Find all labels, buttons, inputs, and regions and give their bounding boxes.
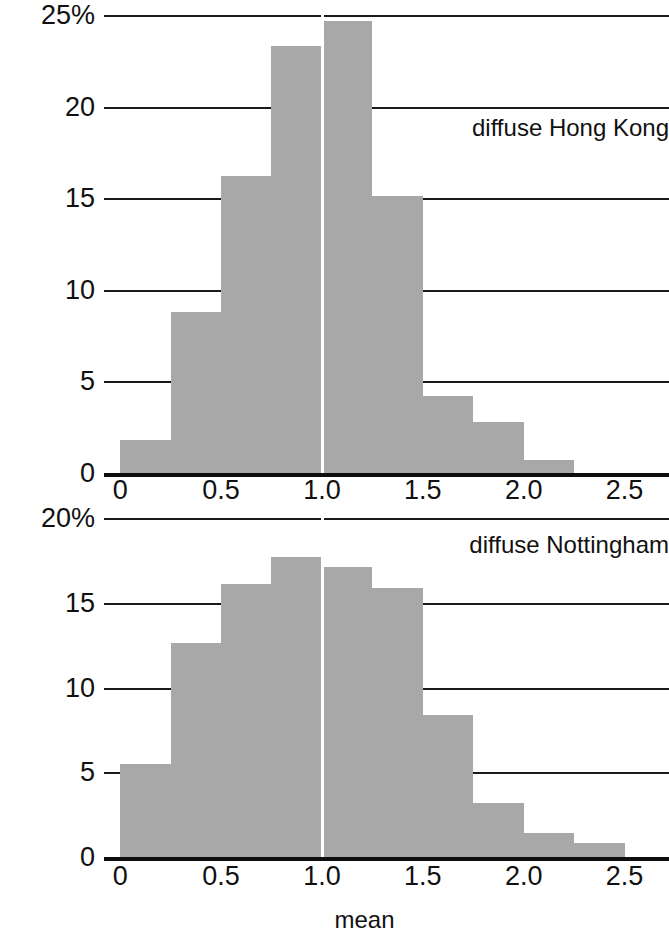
histogram-bar [372, 196, 422, 473]
reference-line-mean-1 [321, 518, 324, 857]
series-label-nottingham: diffuse Nottingham [469, 533, 669, 557]
plot-area-hong-kong: 0510152025% [104, 15, 669, 473]
histogram-figure: 0510152025% 00.51.01.52.02.5 diffuse Hon… [0, 0, 669, 939]
plot-area-nottingham: 05101520% [104, 518, 669, 857]
x-axis-nottingham: 00.51.01.52.02.5 [104, 863, 669, 903]
x-axis-tick-label: 1.0 [303, 863, 341, 890]
y-axis-tick-label: 15 [65, 589, 95, 616]
histogram-bar [423, 715, 473, 857]
y-axis-tick-label: 15 [65, 185, 95, 212]
x-axis-title: mean [0, 908, 669, 932]
y-axis-tick-label: 5 [80, 368, 95, 395]
histogram-bar [372, 588, 422, 858]
y-axis-tick-label: 0 [80, 844, 95, 871]
histogram-bar [524, 833, 574, 857]
y-axis-tick-label: 10 [65, 276, 95, 303]
bars-hong-kong [104, 15, 669, 473]
y-axis-tick-label: 20 [65, 93, 95, 120]
y-axis-tick-label: 5 [80, 759, 95, 786]
series-label-hong-kong: diffuse Hong Kong [472, 116, 669, 140]
histogram-bar [322, 567, 372, 857]
histogram-bar [574, 843, 624, 857]
x-axis-tick-label: 0 [113, 863, 128, 890]
y-axis-tick-label: 10 [65, 674, 95, 701]
histogram-bar [473, 803, 523, 857]
y-axis-tick-label: 20% [41, 505, 95, 532]
histogram-bar [473, 422, 523, 473]
histogram-bar [423, 396, 473, 473]
histogram-bar [120, 764, 170, 857]
histogram-bar [171, 312, 221, 473]
x-axis-tick-label: 1.5 [404, 863, 442, 890]
histogram-bar [171, 643, 221, 857]
bars-nottingham [104, 518, 669, 857]
x-axis-tick-label: 2.5 [606, 863, 644, 890]
histogram-bar [524, 460, 574, 473]
panel-hong-kong: 0510152025% 00.51.01.52.02.5 diffuse Hon… [0, 0, 669, 500]
axis-baseline [104, 857, 669, 861]
x-axis-tick-label: 2.0 [505, 863, 543, 890]
histogram-bar [120, 440, 170, 473]
histogram-bar [271, 557, 321, 857]
y-axis-tick-label: 25% [41, 2, 95, 29]
reference-line-mean-1 [321, 15, 324, 473]
histogram-bar [271, 46, 321, 473]
histogram-bar [322, 21, 372, 474]
histogram-bar [221, 176, 271, 473]
y-axis-tick-label: 0 [80, 460, 95, 487]
panel-nottingham: 05101520% 00.51.01.52.02.5 [0, 500, 669, 939]
x-axis-tick-label: 0.5 [202, 863, 240, 890]
histogram-bar [221, 584, 271, 857]
